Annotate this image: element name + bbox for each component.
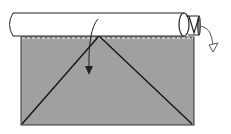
rolled-tube bbox=[10, 13, 185, 36]
turn-over-arrow-icon bbox=[201, 26, 213, 46]
folding-diagram bbox=[0, 0, 231, 134]
paper-sheet bbox=[21, 37, 194, 125]
arrowhead-hollow-icon bbox=[209, 43, 218, 52]
